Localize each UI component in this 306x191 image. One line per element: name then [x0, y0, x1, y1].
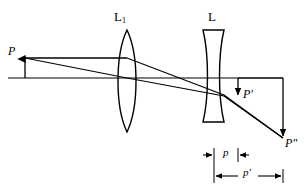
lens-L1-label-subscript: 1 [122, 16, 126, 25]
diverging-lens-L [203, 30, 224, 122]
lens-L1-label: L1 [114, 10, 126, 23]
lens-L1-label-text: L [114, 9, 122, 24]
dimension-p-label: p [223, 147, 229, 158]
lens-L-group [203, 30, 224, 122]
image-point-prime-label: P′ [243, 88, 253, 100]
optics-ray-diagram: L1 L P P′ P″ p p′ [0, 0, 306, 191]
lens-L1-group [118, 30, 136, 132]
converging-lens-L1 [118, 30, 136, 132]
object-point-label: P [8, 45, 15, 57]
dimension-p-prime-label: p′ [243, 167, 251, 178]
image-point-double-prime-label: P″ [285, 137, 297, 149]
diagram-canvas [0, 0, 306, 191]
lens-L-label: L [208, 10, 216, 23]
